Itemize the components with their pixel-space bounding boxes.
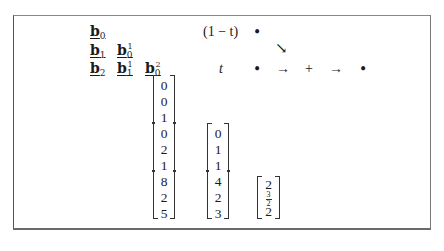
matrix-2: 0 1 1 4 2 3 [207, 123, 229, 219]
matrix-entry: 8 [153, 174, 175, 190]
matrix-entry: 3 [207, 206, 229, 222]
right-arrow-icon-2: → [329, 62, 343, 76]
fraction-numerator: 3 [267, 191, 271, 198]
b-0: b0 [90, 24, 106, 41]
matrix-entry: 1 [207, 142, 229, 158]
matrix-3: 2 3 2 2 [257, 176, 280, 219]
matrix-entry: 0 [207, 126, 229, 142]
b-1: b1 [90, 43, 106, 60]
b-1-1: b11 [117, 61, 133, 78]
matrix-entry: 0 [153, 126, 175, 142]
matrix-entry: 1 [153, 110, 175, 126]
matrix-entry: 2 [153, 190, 175, 206]
bullet-result: • [359, 62, 367, 76]
matrix-entry: 2 [257, 205, 280, 218]
matrix-entry: 4 [207, 174, 229, 190]
right-arrow-icon-1: → [276, 62, 290, 76]
matrix-entry: 2 [153, 142, 175, 158]
matrix-entry: 1 [153, 158, 175, 174]
matrix-entry: 1 [207, 158, 229, 174]
one-minus-t-label: (1 − t) [203, 25, 238, 39]
matrix-entry: 5 [153, 206, 175, 222]
matrix-1: 0 0 1 0 2 1 8 2 5 [153, 75, 175, 219]
bottom-rule [13, 228, 430, 230]
matrix-entry: 0 [153, 94, 175, 110]
bullet-top: • [253, 25, 261, 39]
matrix-entry: 0 [153, 78, 175, 94]
matrix-entry: 2 [207, 190, 229, 206]
b-0-1: b01 [117, 43, 133, 60]
b-2: b2 [90, 61, 106, 78]
matrix-entry-fraction: 3 2 [257, 191, 280, 205]
plus-sign: + [305, 62, 313, 76]
t-label: t [219, 62, 223, 76]
bullet-left: • [253, 62, 261, 76]
diagonal-arrow-icon: ↘ [275, 41, 288, 56]
